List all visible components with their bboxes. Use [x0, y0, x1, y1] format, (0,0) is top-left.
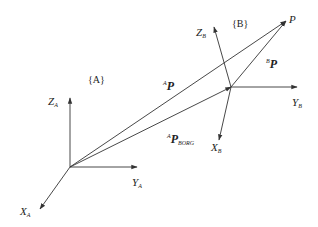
vector-b-p-label: BP	[266, 58, 277, 70]
x-a-text: X	[20, 205, 27, 217]
frame-b-z-axis	[214, 27, 231, 87]
diagram-canvas	[0, 0, 318, 227]
y-b-sub: B	[298, 103, 302, 109]
frame-b-label: {B}	[232, 19, 248, 29]
x-a-sub: A	[27, 212, 31, 218]
z-a-sub: A	[54, 102, 58, 108]
y-a-label: YA	[132, 177, 142, 189]
frame-a-x-axis	[40, 167, 70, 209]
vector-a-p-borg-sub: BORG	[178, 140, 194, 146]
vector-b-p	[231, 21, 286, 87]
y-b-label: YB	[292, 97, 302, 109]
vector-a-p-label: AP	[163, 80, 174, 92]
vector-a-p-borg-label: APBORG	[167, 133, 194, 146]
vector-b-p-text: P	[270, 57, 277, 71]
vector-a-p-text: P	[167, 79, 174, 93]
x-b-label: XB	[211, 142, 221, 154]
x-b-sub: B	[218, 148, 222, 154]
y-a-sub: A	[138, 183, 142, 189]
z-a-label: ZA	[48, 96, 58, 108]
vector-a-p-borg	[70, 87, 231, 167]
point-p-label: P	[289, 14, 296, 25]
frame-a-label: {A}	[88, 75, 105, 85]
x-b-text: X	[211, 141, 218, 153]
x-a-label: XA	[20, 206, 30, 218]
frame-b-x-axis	[219, 87, 231, 140]
z-b-label: ZB	[196, 27, 206, 39]
vector-a-p-borg-text: P	[171, 132, 178, 146]
z-b-sub: B	[202, 33, 206, 39]
